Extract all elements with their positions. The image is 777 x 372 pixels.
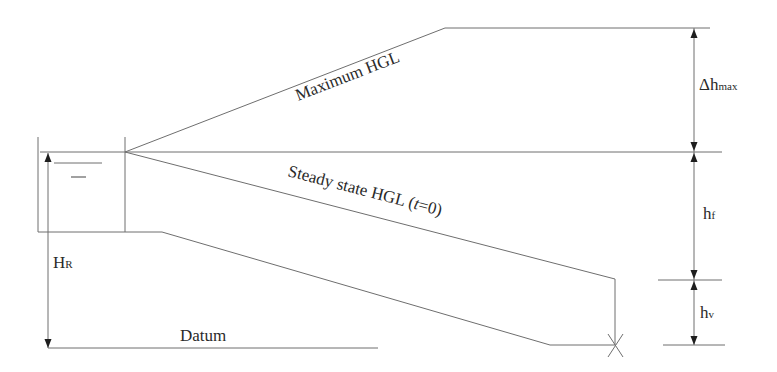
maximum-hgl: Maximum HGL — [125, 28, 710, 152]
steady-state-hgl-line — [125, 152, 615, 345]
arrow-down-icon — [691, 336, 698, 345]
hgl-diagram: Maximum HGL Steady state HGL (t=0) HR Da… — [0, 0, 777, 372]
arrow-down-icon — [691, 270, 698, 279]
arrow-up-icon — [691, 153, 698, 162]
right-dimensions: Δhmax hf hv — [658, 28, 738, 345]
maximum-hgl-line — [125, 28, 710, 152]
pipe-line — [162, 232, 615, 345]
reservoir — [38, 137, 162, 232]
arrow-up-icon — [45, 153, 52, 162]
arrow-down-icon — [45, 339, 52, 348]
maximum-hgl-label: Maximum HGL — [293, 47, 402, 105]
datum-label: Datum — [180, 326, 226, 345]
steady-state-hgl: Steady state HGL (t=0) — [125, 152, 615, 345]
hf-label: hf — [703, 204, 716, 223]
datum: Datum — [48, 326, 378, 348]
delta-h-max-label: Δhmax — [699, 75, 738, 94]
arrow-up-icon — [691, 29, 698, 38]
hv-label: hv — [700, 303, 715, 322]
arrow-up-icon — [691, 281, 698, 290]
steady-state-hgl-label: Steady state HGL (t=0) — [286, 161, 444, 219]
hr-label: HR — [53, 253, 73, 272]
arrow-down-icon — [691, 142, 698, 151]
hr-dimension: HR — [45, 153, 74, 348]
